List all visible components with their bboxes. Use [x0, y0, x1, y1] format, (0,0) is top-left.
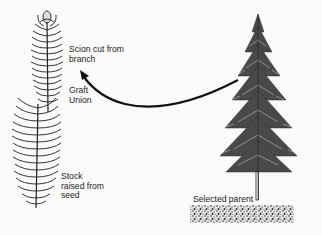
stock-seedling-icon: [12, 98, 61, 208]
scion-branch-icon: [31, 11, 63, 112]
graft-union-label-line-2: Union: [69, 96, 91, 106]
illustration: [0, 0, 322, 235]
selected-parent-label: Selected parent: [193, 195, 253, 205]
parent-tree-icon: [220, 14, 297, 200]
scion-label-line-2: branch: [69, 55, 124, 65]
stock-label-line-3: seed: [61, 191, 104, 201]
stock-label: Stock raised from seed: [61, 172, 104, 201]
diagram-canvas: Scion cut from branch Graft Union Stock …: [0, 0, 322, 235]
scion-label: Scion cut from branch: [69, 45, 124, 64]
graft-union-label: Graft Union: [69, 86, 91, 105]
transfer-arrow-icon: [80, 70, 238, 107]
soil-ground-icon: [190, 205, 294, 223]
